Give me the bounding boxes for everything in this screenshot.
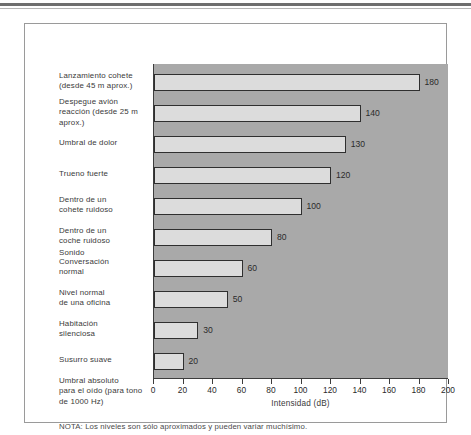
bar-row[interactable]: 130 (154, 136, 449, 153)
top-rule-thick (0, 3, 471, 6)
category-label: Trueno fuerte (59, 169, 159, 180)
bar[interactable] (154, 198, 302, 215)
category-label-line: Umbral de dolor (59, 138, 159, 149)
bar-value-label: 120 (336, 170, 350, 180)
category-label: Dentro de uncoche ruidoso (59, 226, 159, 247)
category-label: Dentro de uncohete ruidoso (59, 195, 159, 216)
figure-frame: Lanzamiento cohete(desde 45 m aprox.)Des… (24, 23, 447, 423)
category-label-line: Nivel normal (59, 288, 159, 299)
x-axis-tick (448, 379, 449, 384)
bar[interactable] (154, 291, 228, 308)
category-label-line: para el oído (para tono (59, 386, 159, 397)
x-axis-tick-label: 100 (294, 385, 308, 395)
category-label-line: Habitación (59, 319, 159, 330)
x-axis-tick (389, 379, 390, 384)
x-axis-tick (330, 379, 331, 384)
category-label-line: Umbral absoluto (59, 376, 159, 387)
chart-note: NOTA: Los niveles son sólo aproximados y… (59, 422, 307, 431)
category-label-line: de una oficina (59, 298, 159, 309)
bar[interactable] (154, 322, 198, 339)
category-label-column: Lanzamiento cohete(desde 45 m aprox.)Des… (59, 64, 151, 379)
x-axis-tick (271, 379, 272, 384)
bar[interactable] (154, 167, 331, 184)
category-label: Umbral de dolor (59, 138, 159, 149)
bar-value-label: 180 (425, 77, 439, 87)
category-label-line: normal (59, 267, 159, 278)
category-label: Habitaciónsilenciosa (59, 319, 159, 340)
bar-row[interactable]: 50 (154, 291, 449, 308)
x-axis-tick-label: 140 (353, 385, 367, 395)
bar-row[interactable]: 30 (154, 322, 449, 339)
category-label: Umbral absolutopara el oído (para tonode… (59, 376, 159, 408)
category-label-line: Susurro suave (59, 355, 159, 366)
category-label-line: silenciosa (59, 329, 159, 340)
category-label-line: Trueno fuerte (59, 169, 159, 180)
category-label-line: reacción (desde 25 m (59, 107, 159, 118)
x-axis-tick (360, 379, 361, 384)
category-label-line: Despegue avión (59, 97, 159, 108)
bar-row[interactable]: 140 (154, 105, 449, 122)
chart-plot-area: 1801401301201008060503020 (153, 64, 448, 379)
bar-value-label: 30 (203, 325, 213, 335)
x-axis-tick (419, 379, 420, 384)
bar-row[interactable]: 20 (154, 353, 449, 370)
bar-row[interactable]: 100 (154, 198, 449, 215)
bar-value-label: 130 (351, 139, 365, 149)
bar[interactable] (154, 353, 184, 370)
x-axis-tick-label: 40 (207, 385, 216, 395)
bar-value-label: 60 (248, 263, 258, 273)
category-label-line: Dentro de un (59, 226, 159, 237)
top-rule-thin (0, 8, 471, 9)
category-label-line: Lanzamiento cohete (59, 71, 159, 82)
x-axis-title: Intensidad (dB) (153, 399, 448, 408)
category-label-line: aprox.) (59, 118, 159, 129)
x-axis-tick (242, 379, 243, 384)
x-axis-tick (301, 379, 302, 384)
category-label: Despegue aviónreacción (desde 25 maprox.… (59, 97, 159, 129)
x-axis-tick-label: 200 (441, 385, 455, 395)
bar-value-label: 80 (277, 232, 287, 242)
category-label: Lanzamiento cohete(desde 45 m aprox.) (59, 71, 159, 92)
x-axis-tick (183, 379, 184, 384)
bar-value-label: 20 (189, 356, 199, 366)
x-axis-tick-label: 160 (382, 385, 396, 395)
category-label: Conversaciónnormal (59, 257, 159, 278)
category-label-line: (desde 45 m aprox.) (59, 81, 159, 92)
bar-row[interactable]: 120 (154, 167, 449, 184)
bar[interactable] (154, 74, 420, 91)
bar-row[interactable]: 60 (154, 260, 449, 277)
category-label: Nivel normalde una oficina (59, 288, 159, 309)
bar-row[interactable]: 180 (154, 74, 449, 91)
x-axis-tick-label: 0 (151, 385, 156, 395)
bar-value-label: 50 (233, 294, 243, 304)
x-axis-tick-label: 180 (412, 385, 426, 395)
bar[interactable] (154, 229, 272, 246)
x-axis-tick-label: 120 (323, 385, 337, 395)
bar-row[interactable]: 80 (154, 229, 449, 246)
x-axis-tick (153, 379, 154, 384)
bar-value-label: 100 (307, 201, 321, 211)
x-axis-tick-label: 60 (237, 385, 246, 395)
bar-value-label: 140 (366, 108, 380, 118)
category-label-line: Dentro de un (59, 195, 159, 206)
category-label: Susurro suave (59, 355, 159, 366)
sonido-marker-label: Sonido (59, 248, 159, 259)
bar[interactable] (154, 136, 346, 153)
bar[interactable] (154, 105, 361, 122)
x-axis-tick (212, 379, 213, 384)
category-label-line: coche ruidoso (59, 236, 159, 247)
category-label-line: cohete ruidoso (59, 205, 159, 216)
bar[interactable] (154, 260, 243, 277)
category-label-line: de 1000 Hz) (59, 397, 159, 408)
x-axis-tick-label: 20 (178, 385, 187, 395)
x-axis-tick-label: 80 (266, 385, 275, 395)
